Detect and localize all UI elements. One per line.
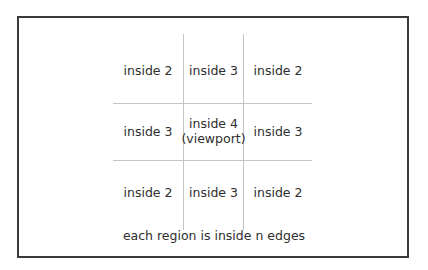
- region-top-center: inside 3: [184, 55, 243, 85]
- region-label: inside 3: [189, 63, 238, 78]
- region-middle-left: inside 3: [113, 116, 183, 146]
- region-viewport: inside 4 (viewport): [184, 111, 243, 151]
- region-label: inside 3: [189, 185, 238, 200]
- region-label: inside 3: [254, 124, 303, 139]
- region-top-left: inside 2: [113, 55, 183, 85]
- region-label: inside 2: [124, 63, 173, 78]
- region-label: inside 2: [254, 185, 303, 200]
- top-horizontal-edge: [113, 103, 312, 104]
- region-middle-right: inside 3: [244, 116, 312, 146]
- diagram-caption: each region is inside n edges: [0, 228, 428, 243]
- region-top-right: inside 2: [244, 55, 312, 85]
- region-bottom-left: inside 2: [113, 177, 183, 207]
- region-label: inside 3: [124, 124, 173, 139]
- bottom-horizontal-edge: [113, 160, 312, 161]
- region-label: inside 2: [254, 63, 303, 78]
- region-bottom-right: inside 2: [244, 177, 312, 207]
- region-label: inside 2: [124, 185, 173, 200]
- region-bottom-center: inside 3: [184, 177, 243, 207]
- region-label: inside 4: [189, 116, 238, 131]
- region-sublabel: (viewport): [181, 131, 245, 146]
